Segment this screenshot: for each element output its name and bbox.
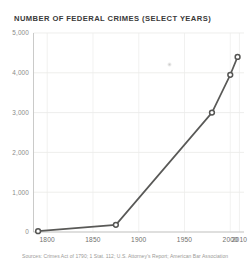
data-point-1980 [210,110,215,115]
x-tick-label-1950: 1950 [177,236,193,243]
line-chart-svg: 01,0002,0003,0004,0005,000 1800185019001… [0,0,252,262]
data-point-1790 [36,229,41,234]
vertical-gridlines [47,33,239,232]
y-tick-label-2000: 2,000 [12,149,29,156]
chart-card: NUMBER OF FEDERAL CRIMES (SELECT YEARS) … [0,0,252,262]
series-line-federal-crimes [38,57,238,231]
y-tick-label-5000: 5,000 [12,29,29,36]
data-point-1875 [113,222,118,227]
y-tick-label-3000: 3,000 [12,109,29,116]
data-point-2000 [228,72,233,77]
plot-area: 01,0002,0003,0004,0005,000 1800185019001… [0,0,252,262]
x-tick-label-1850: 1850 [85,236,101,243]
x-axis-tick-labels: 180018501900195020002010 [39,236,247,243]
y-axis-tick-labels: 01,0002,0003,0004,0005,000 [12,29,29,235]
x-tick-label-1900: 1900 [131,236,147,243]
source-note: Sources: Crimes Act of 1790; 1 Stat. 112… [22,253,248,260]
x-tick-label-1800: 1800 [39,236,55,243]
data-point-2008 [235,54,240,59]
page-artifact-smudge [167,62,172,67]
y-tick-label-4000: 4,000 [12,69,29,76]
x-tick-label-2010: 2010 [232,236,248,243]
y-tick-label-0: 0 [25,228,29,235]
series-markers [36,54,240,233]
y-tick-label-1000: 1,000 [12,189,29,196]
